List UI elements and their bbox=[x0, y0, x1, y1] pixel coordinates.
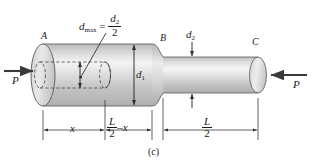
dmax-num-subscript: 2 bbox=[116, 18, 120, 26]
point-label-B: B bbox=[160, 33, 166, 43]
shoulder-fillet bbox=[152, 44, 163, 106]
point-label-A: A bbox=[41, 31, 47, 41]
figure-stepped-shaft: A B C P P d1 d2 dmax = d2 2 x L 2 –x L 2… bbox=[0, 0, 312, 166]
mid-denominator: 2 bbox=[107, 128, 117, 139]
force-label-left: P bbox=[12, 75, 19, 86]
dim-label-x: x bbox=[70, 123, 75, 134]
point-label-C: C bbox=[252, 37, 259, 47]
dmax-fraction: d2 2 bbox=[108, 13, 121, 38]
small-shaft-BC bbox=[163, 57, 267, 93]
right-fraction: L 2 bbox=[202, 116, 212, 139]
force-label-right: P bbox=[293, 79, 300, 90]
d2-subscript: 2 bbox=[192, 34, 196, 42]
diameter-label-d1: d1 bbox=[136, 69, 145, 82]
dmax-equals: = bbox=[99, 20, 105, 32]
right-denominator: 2 bbox=[202, 128, 212, 139]
d1-subscript: 1 bbox=[142, 74, 146, 82]
figure-caption: (c) bbox=[148, 146, 159, 157]
end-cap-C bbox=[250, 57, 267, 93]
dmax-equation: dmax = d2 2 bbox=[79, 13, 121, 38]
mid-fraction: L 2 bbox=[107, 116, 117, 139]
dmax-denominator: 2 bbox=[108, 27, 121, 38]
dmax-subscript: max bbox=[85, 26, 97, 34]
diameter-label-d2: d2 bbox=[186, 29, 195, 42]
dmax-numerator: d2 bbox=[108, 13, 121, 27]
shaft-body bbox=[31, 44, 267, 106]
shaft-diagram-svg bbox=[0, 0, 312, 166]
dim-label-right: L 2 bbox=[202, 116, 212, 139]
mid-tail: x bbox=[123, 121, 128, 133]
dim-label-mid: L 2 –x bbox=[107, 116, 128, 139]
